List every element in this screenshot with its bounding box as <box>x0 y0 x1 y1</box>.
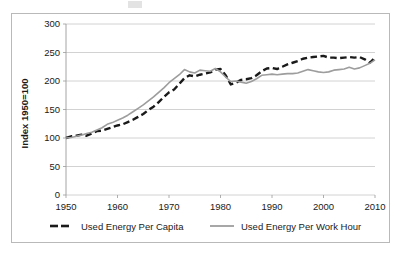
legend-label-0: Used Energy Per Capita <box>81 221 184 232</box>
y-tick-label: 100 <box>44 132 60 143</box>
x-tick-label: 1950 <box>55 201 76 212</box>
y-tick-label: 0 <box>55 189 60 200</box>
y-tick-label: 50 <box>49 161 60 172</box>
x-tick-label: 1960 <box>107 201 128 212</box>
x-tick-label: 2000 <box>313 201 334 212</box>
series-line-1 <box>66 60 375 138</box>
line-chart: 0501001502002503001950196019701980199020… <box>12 14 389 242</box>
x-tick-label: 1990 <box>261 201 282 212</box>
top-artifact <box>128 1 142 8</box>
x-tick-label: 2010 <box>364 201 385 212</box>
y-tick-label: 150 <box>44 104 60 115</box>
y-tick-label: 200 <box>44 75 60 86</box>
y-tick-label: 300 <box>44 18 60 29</box>
y-axis-label: Index 1950=100 <box>19 79 30 149</box>
y-tick-label: 250 <box>44 47 60 58</box>
chart-frame: 0501001502002503001950196019701980199020… <box>11 13 390 243</box>
chart-figure: 0501001502002503001950196019701980199020… <box>0 0 401 258</box>
x-tick-label: 1970 <box>158 201 179 212</box>
legend-label-1: Used Energy Per Work Hour <box>241 221 361 232</box>
series-line-0 <box>66 56 375 138</box>
x-tick-label: 1980 <box>210 201 231 212</box>
